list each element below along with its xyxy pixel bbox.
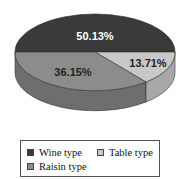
legend-swatch-raisin (27, 163, 34, 170)
legend-label-wine: Wine type (39, 147, 82, 158)
legend-swatch-wine (27, 149, 34, 156)
legend-label-raisin: Raisin type (39, 161, 87, 172)
legend-swatch-table (97, 149, 104, 156)
pie-chart: 50.13% 13.71% 36.15% (0, 0, 182, 130)
chart-legend: Wine type Table type Raisin type (20, 140, 160, 177)
label-wine: 50.13% (76, 30, 114, 42)
legend-item-wine: Wine type (27, 147, 82, 158)
legend-label-table: Table type (109, 147, 153, 158)
label-raisin: 36.15% (54, 66, 92, 78)
legend-item-raisin: Raisin type (27, 161, 87, 172)
label-table: 13.71% (129, 57, 167, 69)
legend-item-table: Table type (97, 147, 153, 158)
